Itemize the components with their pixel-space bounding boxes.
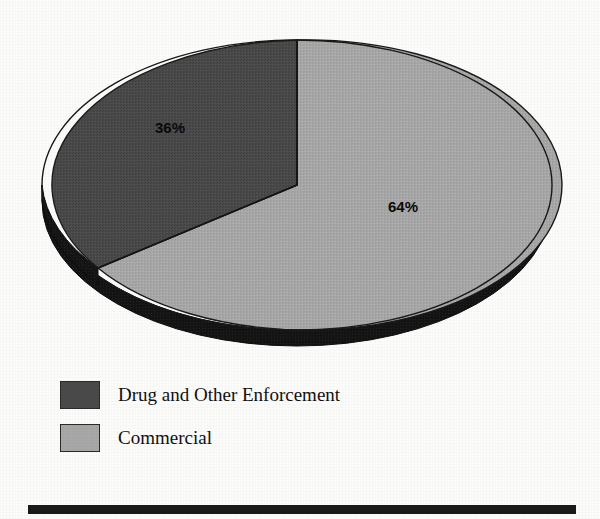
page-canvas: 36% 64% Drug and Other Enforcement Comme… [0,0,600,519]
legend-swatch-icon-commercial [60,424,100,452]
pie-label-64-percent: 64% [388,199,418,214]
pie-chart: 36% 64% [0,0,600,360]
pie-chart-svg [0,0,600,360]
footer-rule [28,505,576,514]
legend-item-commercial[interactable]: Commercial [60,421,480,464]
legend-swatch-icon-drug-and-other-enforcement [60,381,100,409]
legend-label-drug-and-other-enforcement: Drug and Other Enforcement [118,378,340,412]
legend-item-drug-and-other-enforcement[interactable]: Drug and Other Enforcement [60,378,480,421]
chart-legend: Drug and Other Enforcement Commercial [60,378,480,464]
legend-label-commercial: Commercial [118,421,212,455]
pie-label-36-percent: 36% [155,120,185,135]
